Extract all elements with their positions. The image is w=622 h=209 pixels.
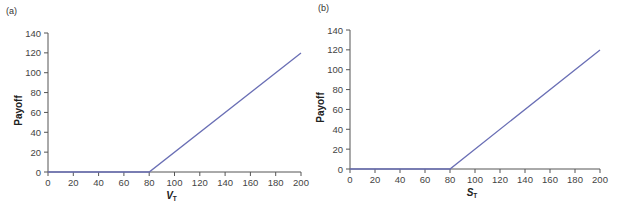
series-line-payoff <box>48 53 301 172</box>
payoff-charts: (a)0204060801001201400204060801001201401… <box>0 0 622 209</box>
x-tick-label: 0 <box>45 177 50 188</box>
series-line-payoff <box>350 50 600 169</box>
y-tick-label: 120 <box>25 47 41 58</box>
y-axis-title: Payoff <box>315 92 326 123</box>
x-tick-label: 100 <box>167 177 183 188</box>
y-tick-label: 100 <box>25 67 41 78</box>
x-tick-label: 140 <box>217 177 233 188</box>
y-tick-label: 100 <box>327 64 343 75</box>
y-tick-label: 40 <box>30 127 41 138</box>
chart-panel-a: (a)0204060801001201400204060801001201401… <box>6 6 309 202</box>
x-tick-label: 200 <box>293 177 309 188</box>
x-tick-label: 80 <box>144 177 155 188</box>
x-tick-label: 200 <box>592 174 608 185</box>
x-axis-title: ST <box>467 187 478 199</box>
x-tick-label: 160 <box>542 174 558 185</box>
x-axis-title-subscript: T <box>473 192 477 199</box>
x-tick-label: 100 <box>467 174 483 185</box>
y-tick-label: 120 <box>327 44 343 55</box>
x-axis-title: VT <box>166 190 177 202</box>
y-axis-title: Payoff <box>13 95 24 126</box>
x-tick-label: 40 <box>395 174 406 185</box>
x-tick-label: 180 <box>567 174 583 185</box>
x-tick-label: 60 <box>119 177 130 188</box>
x-tick-label: 140 <box>517 174 533 185</box>
x-axis-title-subscript: T <box>173 195 177 202</box>
y-tick-label: 20 <box>30 147 41 158</box>
y-tick-label: 80 <box>30 87 41 98</box>
y-tick-label: 20 <box>332 144 343 155</box>
y-tick-label: 0 <box>338 164 343 175</box>
x-tick-label: 20 <box>370 174 381 185</box>
x-tick-label: 40 <box>93 177 104 188</box>
x-tick-label: 120 <box>492 174 508 185</box>
x-tick-label: 0 <box>347 174 352 185</box>
y-tick-label: 140 <box>327 25 343 36</box>
y-tick-label: 80 <box>332 84 343 95</box>
y-tick-label: 60 <box>30 107 41 118</box>
y-tick-label: 40 <box>332 124 343 135</box>
y-tick-label: 140 <box>25 28 41 39</box>
x-tick-label: 80 <box>445 174 456 185</box>
chart-panel-b: (b)0204060801001201400204060801001201401… <box>315 3 608 199</box>
x-tick-label: 120 <box>192 177 208 188</box>
y-tick-label: 0 <box>36 167 41 178</box>
x-tick-label: 20 <box>68 177 79 188</box>
x-tick-label: 60 <box>420 174 431 185</box>
panel-label: (b) <box>318 3 329 13</box>
x-tick-label: 160 <box>242 177 258 188</box>
x-tick-label: 180 <box>268 177 284 188</box>
y-tick-label: 60 <box>332 104 343 115</box>
panel-label: (a) <box>6 6 17 16</box>
